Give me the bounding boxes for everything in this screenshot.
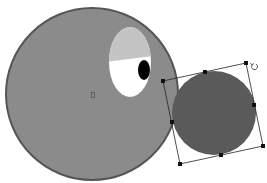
corner-resize-handle[interactable] — [261, 144, 265, 148]
large-circle-shape[interactable] — [6, 8, 178, 180]
edge-resize-handle[interactable] — [170, 120, 174, 124]
corner-resize-handle[interactable] — [244, 61, 248, 65]
edge-resize-handle[interactable] — [203, 70, 207, 74]
small-circle-shape-selected[interactable] — [172, 71, 256, 155]
pupil-shape[interactable] — [138, 60, 150, 80]
edge-resize-handle[interactable] — [219, 153, 223, 157]
rotate-handle-icon[interactable] — [251, 63, 258, 70]
drawing-canvas[interactable] — [0, 0, 267, 183]
edge-resize-handle[interactable] — [252, 103, 256, 107]
corner-resize-handle[interactable] — [161, 79, 165, 83]
corner-resize-handle[interactable] — [178, 162, 182, 166]
